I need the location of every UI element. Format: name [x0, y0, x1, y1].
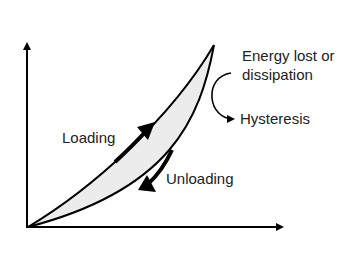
- unloading-label: Unloading: [166, 170, 234, 187]
- loading-curve: [28, 45, 214, 227]
- hysteresis-label: Hysteresis: [240, 110, 310, 127]
- energy-lost-label-line2: dissipation: [242, 66, 313, 83]
- hysteresis-loop-area: [28, 45, 214, 227]
- energy-lost-label-line1: Energy lost or: [242, 47, 335, 64]
- loading-label: Loading: [62, 129, 115, 146]
- unloading-curve: [28, 45, 214, 227]
- curved-arrow-icon: [212, 73, 233, 119]
- hysteresis-diagram: Loading Unloading Energy lost or dissipa…: [0, 0, 361, 260]
